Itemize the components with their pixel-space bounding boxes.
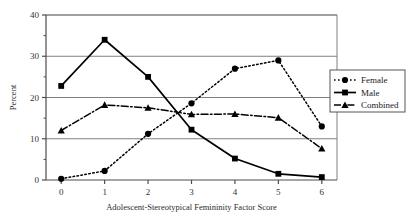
point-combined-5: [275, 114, 282, 121]
legend-label-female: Female: [361, 75, 388, 85]
legend-marker-male: [342, 90, 348, 96]
point-male-3: [189, 127, 195, 133]
x-tick-label-4: 4: [233, 187, 238, 197]
series-female: [58, 57, 325, 182]
y-tick-label-10: 10: [30, 134, 40, 144]
point-female-5: [275, 57, 281, 63]
point-male-0: [58, 83, 64, 89]
chart-figure: 010203040Percent 0123456Adolescent-Stere…: [0, 0, 415, 224]
line-chart: 010203040Percent 0123456Adolescent-Stere…: [0, 0, 415, 224]
chart-legend: FemaleMaleCombined: [330, 70, 405, 112]
y-tick-label-40: 40: [30, 10, 40, 20]
legend-label-combined: Combined: [361, 100, 399, 110]
x-tick-label-1: 1: [102, 187, 107, 197]
y-tick-label-30: 30: [30, 51, 40, 61]
point-female-6: [319, 123, 325, 129]
point-male-1: [102, 37, 108, 43]
y-axis-title-text: Percent: [8, 84, 18, 110]
y-tick-label-20: 20: [30, 93, 40, 103]
x-tick-label-5: 5: [276, 187, 281, 197]
point-female-2: [145, 131, 151, 137]
point-combined-0: [58, 127, 65, 134]
point-female-4: [232, 66, 238, 72]
x-tick-label-2: 2: [146, 187, 151, 197]
point-female-3: [188, 100, 194, 106]
point-male-2: [145, 74, 151, 80]
x-axis: 0123456Adolescent-Stereotypical Feminini…: [46, 180, 337, 212]
point-female-0: [58, 176, 64, 182]
point-combined-1: [101, 101, 108, 108]
point-female-1: [102, 168, 108, 174]
y-axis: 010203040Percent: [8, 10, 46, 185]
legend-marker-female: [342, 77, 348, 83]
series-combined: [58, 101, 326, 151]
x-tick-label-6: 6: [320, 187, 325, 197]
point-male-4: [232, 156, 238, 162]
series-layer: [58, 37, 326, 182]
y-tick-label-0: 0: [35, 175, 40, 185]
legend-label-male: Male: [361, 88, 380, 98]
series-line-female: [61, 60, 322, 178]
x-tick-label-3: 3: [189, 187, 194, 197]
x-tick-label-0: 0: [59, 187, 64, 197]
grid-lines: [46, 15, 337, 139]
point-male-5: [275, 171, 281, 177]
x-axis-title-text: Adolescent-Stereotypical Femininity Fact…: [106, 202, 277, 212]
series-line-male: [61, 40, 322, 177]
point-male-6: [319, 174, 325, 180]
